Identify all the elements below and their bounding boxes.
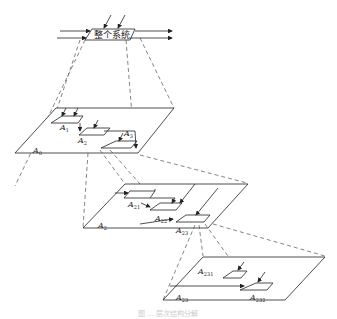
level-3-plane <box>163 257 325 300</box>
top-box-label: 整个系统 <box>94 29 130 40</box>
caption: 图 ... 层次结构分解 <box>138 309 198 318</box>
level-1-plane <box>15 108 174 153</box>
hierarchy-diagram: 整个系统 A0 A1 A2 A3 <box>0 0 337 319</box>
